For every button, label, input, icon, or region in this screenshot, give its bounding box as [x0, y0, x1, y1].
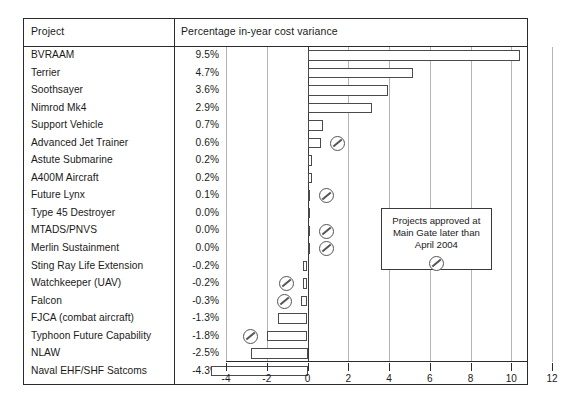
variance-value-cell: -0.3%	[174, 295, 219, 306]
variance-value-cell: 0.2%	[174, 154, 219, 165]
project-name-cell: Type 45 Destroyer	[31, 207, 115, 218]
variance-value-cell: 3.6%	[174, 84, 219, 95]
x-tick-label: 6	[418, 373, 442, 384]
x-tick-label: -4	[214, 373, 238, 384]
x-tick	[389, 363, 390, 371]
x-tick	[308, 363, 309, 371]
bar	[308, 138, 321, 149]
project-name-cell: Nimrod Mk4	[31, 102, 86, 113]
bar-row	[226, 170, 527, 188]
project-name-cell: Soothsayer	[31, 84, 83, 95]
table-body: BVRAAM9.5%Terrier4.7%Soothsayer3.6%Nimro…	[24, 47, 527, 384]
bar	[308, 103, 373, 114]
table-header-row: Project Percentage in-year cost variance	[24, 19, 527, 47]
variance-value-cell: 0.0%	[174, 207, 219, 218]
variance-value-cell: -1.8%	[174, 330, 219, 341]
project-name-cell: MTADS/PNVS	[31, 224, 97, 235]
bar	[278, 313, 307, 324]
table-row: Watchkeeper (UAV)-0.2%	[24, 275, 226, 293]
plot-inner: Projects approved atMain Gate later than…	[226, 47, 527, 362]
bar-chart-plot: Projects approved atMain Gate later than…	[226, 47, 527, 384]
x-tick-label: 4	[377, 373, 401, 384]
bar	[308, 68, 413, 79]
project-name-cell: Falcon	[31, 295, 62, 306]
table-frame: Project Percentage in-year cost variance…	[23, 18, 528, 385]
bar	[308, 243, 310, 254]
project-name-cell: Typhoon Future Capability	[31, 330, 151, 341]
x-tick	[430, 363, 431, 371]
no-entry-icon	[330, 136, 345, 151]
no-entry-icon	[319, 188, 334, 203]
no-entry-icon	[319, 224, 334, 239]
table-row: Future Lynx0.1%	[24, 187, 226, 205]
table-row: Typhoon Future Capability-1.8%	[24, 328, 226, 346]
bar-row	[226, 152, 527, 170]
project-rows: BVRAAM9.5%Terrier4.7%Soothsayer3.6%Nimro…	[24, 47, 226, 380]
no-entry-icon	[319, 241, 334, 256]
bar-row	[226, 135, 527, 153]
variance-value-cell: 0.6%	[174, 137, 219, 148]
bar	[308, 208, 310, 219]
x-tick-label: 8	[459, 373, 483, 384]
project-name-cell: Sting Ray Life Extension	[31, 260, 143, 271]
variance-value-cell: 0.7%	[174, 119, 219, 130]
header-column-divider	[174, 19, 175, 47]
variance-value-cell: 4.7%	[174, 67, 219, 78]
table-row: BVRAAM9.5%	[24, 47, 226, 65]
x-tick	[226, 363, 227, 371]
project-name-cell: Naval EHF/SHF Satcoms	[31, 365, 147, 376]
table-row: Nimrod Mk42.9%	[24, 100, 226, 118]
project-name-cell: NLAW	[31, 347, 60, 358]
x-tick	[471, 363, 472, 371]
bar	[308, 155, 312, 166]
x-tick	[511, 363, 512, 371]
gridline	[552, 47, 553, 362]
bar-row	[226, 82, 527, 100]
no-entry-icon	[279, 276, 294, 291]
no-entry-icon	[429, 256, 444, 271]
bar	[303, 261, 307, 272]
bar-row	[226, 65, 527, 83]
variance-value-cell: -0.2%	[174, 260, 219, 271]
project-name-cell: BVRAAM	[31, 49, 74, 60]
legend-callout: Projects approved atMain Gate later than…	[381, 208, 492, 270]
table-row: MTADS/PNVS0.0%	[24, 222, 226, 240]
variance-value-cell: 0.2%	[174, 172, 219, 183]
bar	[308, 85, 389, 96]
callout-line: Main Gate later than	[382, 227, 491, 239]
table-row: Falcon-0.3%	[24, 293, 226, 311]
bar-row	[226, 275, 527, 293]
table-row: Advanced Jet Trainer0.6%	[24, 135, 226, 153]
variance-value-cell: -1.3%	[174, 312, 219, 323]
callout-line: April 2004	[382, 239, 491, 251]
table-row: Support Vehicle0.7%	[24, 117, 226, 135]
table-row: Soothsayer3.6%	[24, 82, 226, 100]
x-tick	[348, 363, 349, 371]
x-tick	[552, 363, 553, 371]
no-entry-icon	[277, 294, 292, 309]
project-name-cell: Advanced Jet Trainer	[31, 137, 128, 148]
header-project-label: Project	[31, 25, 64, 37]
table-row: Astute Submarine0.2%	[24, 152, 226, 170]
x-tick-label: 0	[296, 373, 320, 384]
bar	[301, 296, 308, 307]
variance-value-cell: 0.0%	[174, 242, 219, 253]
bar	[308, 120, 324, 131]
project-name-cell: FJCA (combat aircraft)	[31, 312, 134, 323]
bar	[308, 50, 521, 61]
variance-value-cell: -0.2%	[174, 277, 219, 288]
project-name-cell: A400M Aircraft	[31, 172, 99, 183]
bar	[303, 278, 307, 289]
variance-value-cell: 0.1%	[174, 189, 219, 200]
variance-value-cell: 0.0%	[174, 224, 219, 235]
x-tick	[267, 363, 268, 371]
bar-row	[226, 293, 527, 311]
table-row: Sting Ray Life Extension-0.2%	[24, 258, 226, 276]
table-row: A400M Aircraft0.2%	[24, 170, 226, 188]
bar-row	[226, 187, 527, 205]
table-row: Naval EHF/SHF Satcoms-4.3%	[24, 363, 226, 381]
project-name-cell: Terrier	[31, 67, 60, 78]
table-row: Merlin Sustainment0.0%	[24, 240, 226, 258]
bar-row	[226, 117, 527, 135]
